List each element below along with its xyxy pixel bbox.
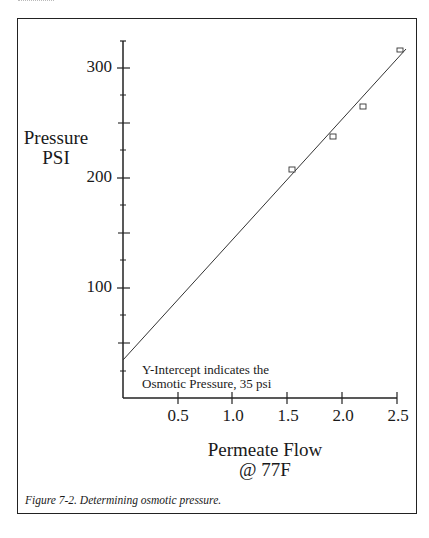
data-point-2 [330,134,336,139]
y-axis-label: Pressure PSI [20,128,92,168]
x-tick-label-0.5: 0.5 [158,406,198,426]
y-axis-label-line2: PSI [20,148,92,168]
y-tick-label-200: 200 [72,167,112,187]
x-axis-label-line1: Permeate Flow [190,440,340,460]
annotation-line1: Y-Intercept indicates the [142,363,271,377]
y-tick-label-300: 300 [72,57,112,77]
y-intercept-annotation: Y-Intercept indicates the Osmotic Pressu… [142,363,271,391]
y-axis-label-line1: Pressure [20,128,92,148]
x-tick-label-1.0: 1.0 [213,406,253,426]
figure-caption: Figure 7-2. Determining osmotic pressure… [25,494,221,506]
annotation-line2: Osmotic Pressure, 35 psi [142,377,271,391]
data-point-1 [289,167,295,172]
data-point-3 [360,104,366,109]
fit-line [123,49,406,360]
x-tick-label-2.0: 2.0 [323,406,363,426]
data-point-4 [397,48,403,52]
y-tick-label-100: 100 [72,277,112,297]
x-tick-label-1.5: 1.5 [268,406,308,426]
x-axis-label: Permeate Flow @ 77F [190,440,340,480]
x-axis-label-line2: @ 77F [190,460,340,480]
x-tick-label-2.5: 2.5 [378,406,418,426]
